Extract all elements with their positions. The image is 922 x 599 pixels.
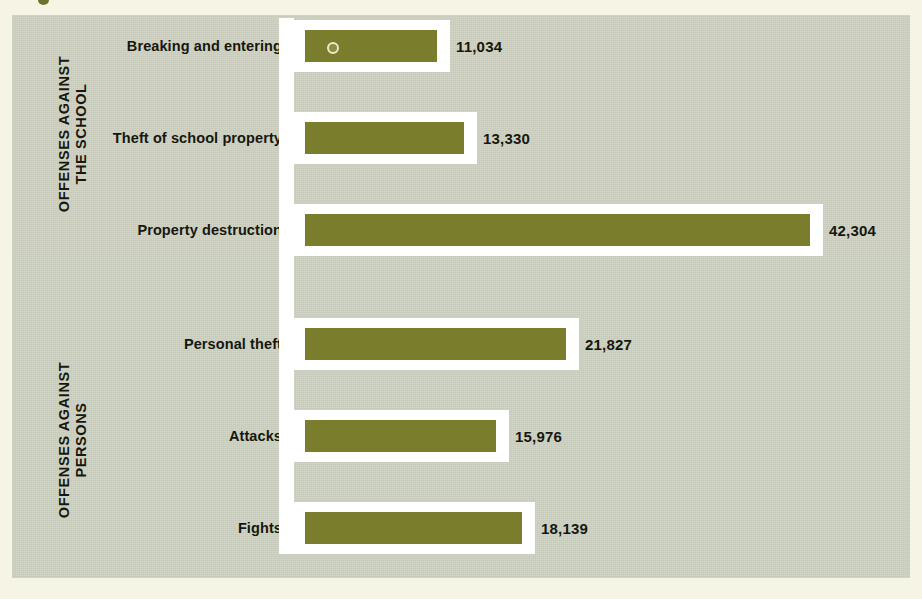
bar-category-label: Property destruction xyxy=(137,222,282,238)
bar[interactable] xyxy=(305,328,566,360)
print-speck-icon xyxy=(327,42,339,54)
bar[interactable] xyxy=(305,420,496,452)
bar-value-label: 18,139 xyxy=(541,520,588,537)
page-background: OFFENSES AGAINST THE SCHOOL OFFENSES AGA… xyxy=(0,0,922,599)
bar-row: Attacks15,976 xyxy=(0,408,898,464)
bar-value-label: 42,304 xyxy=(829,222,876,239)
bar-row: Property destruction42,304 xyxy=(0,202,898,258)
group-label-offenses-against-persons: OFFENSES AGAINST PERSONS xyxy=(56,310,90,570)
baseline-strip xyxy=(279,18,294,543)
bar-outline xyxy=(279,112,477,164)
bar[interactable] xyxy=(305,122,464,154)
bar-category-label: Attacks xyxy=(229,428,282,444)
bar-outline xyxy=(279,318,579,370)
bar[interactable] xyxy=(305,30,437,62)
bar-category-label: Breaking and entering xyxy=(127,38,282,54)
bar-value-label: 21,827 xyxy=(585,336,632,353)
bar-row: Theft of school property13,330 xyxy=(0,110,898,166)
group-label-offenses-against-the-school: OFFENSES AGAINST THE SCHOOL xyxy=(56,4,90,264)
bar-outline xyxy=(279,410,509,462)
bar-outline xyxy=(279,20,450,72)
bar-outline xyxy=(279,502,535,554)
bar-category-label: Theft of school property xyxy=(113,130,282,146)
bar-outline xyxy=(279,204,823,256)
bar-category-label: Personal theft xyxy=(184,336,282,352)
bar[interactable] xyxy=(305,214,810,246)
bar[interactable] xyxy=(305,512,522,544)
bar-row: Personal theft21,827 xyxy=(0,316,898,372)
chart-plot-area: OFFENSES AGAINST THE SCHOOL OFFENSES AGA… xyxy=(0,0,898,563)
bar-value-label: 11,034 xyxy=(456,38,502,55)
bar-row: Fights18,139 xyxy=(0,500,898,556)
bar-category-label: Fights xyxy=(238,520,282,536)
bar-row: Breaking and entering11,034 xyxy=(0,18,898,74)
bar-value-label: 15,976 xyxy=(515,428,562,445)
bar-value-label: 13,330 xyxy=(483,130,530,147)
